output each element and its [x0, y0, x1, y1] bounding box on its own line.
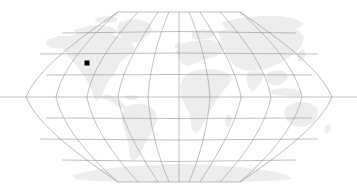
- land-north-america: [62, 33, 135, 101]
- land-india: [246, 71, 264, 92]
- land-south-america: [122, 104, 157, 161]
- world-map-figure: [0, 0, 357, 188]
- map-canvas[interactable]: [0, 0, 357, 188]
- marker-layer[interactable]: [85, 61, 90, 66]
- land-indonesia: [271, 88, 303, 96]
- land-asia: [218, 23, 304, 71]
- land-new-zealand: [324, 124, 331, 134]
- location-marker[interactable]: [85, 61, 90, 66]
- land-caribbean: [124, 95, 139, 100]
- land-africa: [180, 69, 232, 133]
- land-australia: [284, 102, 318, 127]
- land-arctic-islands: [95, 16, 118, 23]
- land-central-america: [101, 94, 127, 110]
- land-madagascar: [225, 114, 232, 127]
- land-southeast-asia: [266, 70, 288, 86]
